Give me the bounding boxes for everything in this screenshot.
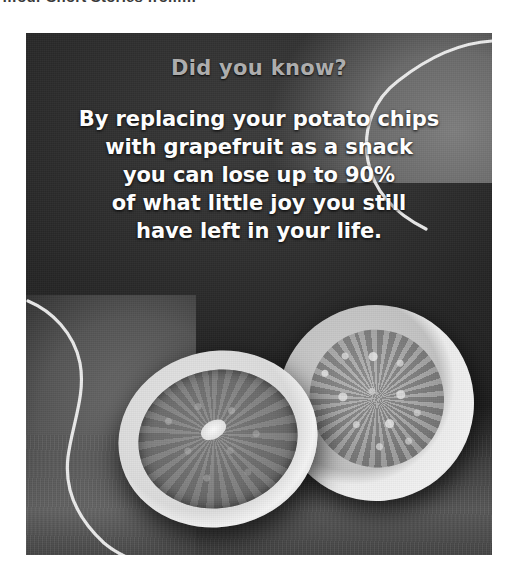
meme-headline: Did you know?: [26, 57, 492, 80]
grapefruit-front-face-texture: [125, 355, 310, 523]
meme-body-line: you can lose up to 90%: [34, 162, 484, 190]
page-header-strip: …our Short Stories from…: [0, 0, 526, 7]
meme-body-line: have left in your life.: [34, 218, 484, 246]
page-header-text: …our Short Stories from…: [2, 0, 197, 5]
grapefruit-front-cut-face: [125, 355, 310, 523]
meme-body-line: By replacing your potato chips: [34, 106, 484, 134]
grapefruit-back-pulp-texture: [294, 314, 460, 483]
meme-body-text: By replacing your potato chips with grap…: [26, 106, 492, 246]
meme-caption-block: Did you know? By replacing your potato c…: [26, 57, 492, 246]
meme-body-line: of what little joy you still: [34, 190, 484, 218]
meme-body-line: with grapefruit as a snack: [34, 134, 484, 162]
grapefruit-back-pulp: [294, 314, 460, 483]
meme-image: Did you know? By replacing your potato c…: [26, 33, 492, 555]
